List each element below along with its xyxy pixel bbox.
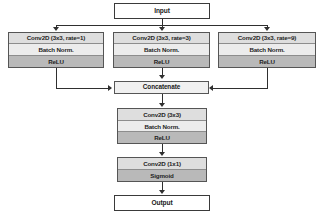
output-conv-block: Conv2D (1x1) Sigmoid — [117, 157, 207, 182]
branch-middle-conv-label: Conv2D (3x3, rate=3) — [132, 34, 190, 41]
conv-block-conv-label: Conv2D (3x3) — [143, 111, 181, 118]
node-concatenate: Concatenate — [114, 81, 209, 94]
arrowhead-branch-middle — [159, 27, 165, 31]
conv-block-bn-label: Batch Norm. — [144, 123, 179, 130]
output-sigmoid-label: Sigmoid — [150, 172, 173, 179]
branch-right-relu: ReLU — [219, 56, 315, 67]
arrowhead-concat-right — [209, 85, 213, 91]
arrowhead-output — [159, 190, 165, 194]
arrowhead-branch-left — [53, 27, 59, 31]
branch-left-relu: ReLU — [9, 56, 103, 67]
edge-left-across — [56, 88, 111, 89]
output-sigmoid: Sigmoid — [118, 170, 206, 181]
conv-block-bn: Batch Norm. — [118, 121, 206, 133]
branch-middle-bn-label: Batch Norm. — [144, 46, 179, 53]
branch-left-conv-label: Conv2D (3x3, rate=1) — [27, 34, 85, 41]
branch-right-relu-label: ReLU — [259, 58, 275, 65]
conv-block: Conv2D (3x3) Batch Norm. ReLU — [117, 108, 207, 144]
branch-middle-relu-label: ReLU — [154, 58, 170, 65]
arrowhead-concat-middle — [159, 75, 165, 79]
branch-right-bn: Batch Norm. — [219, 44, 315, 56]
node-input: Input — [114, 3, 210, 19]
edge-left-down — [56, 68, 57, 89]
branch-left-conv: Conv2D (3x3, rate=1) — [9, 33, 103, 45]
output-conv-1x1: Conv2D (1x1) — [118, 158, 206, 170]
diagram-canvas: Input Conv2D (3x3, rate=1) Batch Norm. R… — [0, 0, 324, 217]
output-conv-1x1-label: Conv2D (1x1) — [143, 160, 181, 167]
conv-block-conv: Conv2D (3x3) — [118, 109, 206, 121]
branch-middle-relu: ReLU — [114, 56, 209, 67]
arrowhead-branch-right — [264, 27, 270, 31]
branch-middle-conv: Conv2D (3x3, rate=3) — [114, 33, 209, 45]
branch-left-relu-label: ReLU — [48, 58, 64, 65]
branch-right-conv: Conv2D (3x3, rate=9) — [219, 33, 315, 45]
edge-right-down — [267, 68, 268, 89]
branch-right-conv-label: Conv2D (3x3, rate=9) — [238, 34, 296, 41]
conv-block-relu: ReLU — [118, 132, 206, 143]
conv-block-relu-label: ReLU — [154, 134, 170, 141]
branch-left-bn-label: Batch Norm. — [38, 46, 73, 53]
arrowhead-conv-block — [159, 103, 165, 107]
node-input-label: Input — [154, 8, 170, 15]
branch-middle: Conv2D (3x3, rate=3) Batch Norm. ReLU — [113, 32, 210, 68]
branch-left: Conv2D (3x3, rate=1) Batch Norm. ReLU — [8, 32, 104, 68]
arrowhead-out-block — [159, 152, 165, 156]
node-concatenate-label: Concatenate — [143, 84, 180, 90]
branch-left-bn: Batch Norm. — [9, 44, 103, 56]
node-output: Output — [114, 195, 210, 211]
branch-middle-bn: Batch Norm. — [114, 44, 209, 56]
branch-right-bn-label: Batch Norm. — [249, 46, 284, 53]
branch-right: Conv2D (3x3, rate=9) Batch Norm. ReLU — [218, 32, 316, 68]
node-output-label: Output — [151, 200, 172, 207]
arrowhead-concat-left — [108, 85, 112, 91]
edge-right-across — [212, 88, 267, 89]
